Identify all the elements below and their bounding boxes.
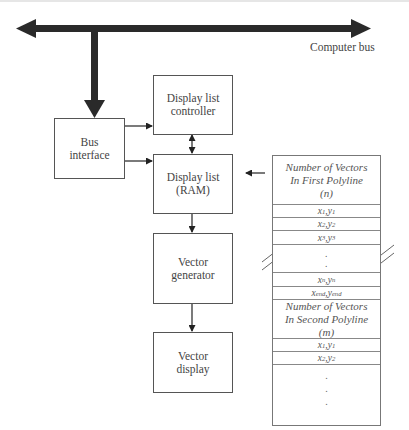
table-row: x3,y3 [273, 231, 380, 245]
ellipsis-row: . . [273, 245, 380, 273]
table-row: x2,y2 [273, 218, 380, 231]
block-label-line: Vector [171, 256, 214, 269]
header-line: In First Polyline [290, 174, 363, 187]
header-line: (m) [319, 326, 334, 339]
block-label-line: interface [69, 149, 109, 162]
table-row: xn,yn [273, 273, 380, 287]
header-line: Number of Vectors [286, 161, 368, 174]
vector-generator-block: Vectorgenerator [153, 233, 233, 304]
header-line: (n) [320, 187, 333, 200]
ellipsis-dot: . [273, 382, 380, 395]
computer-bus-arrow [16, 19, 371, 38]
display-list-table: Number of Vectors In First Polyline (n) … [272, 155, 381, 426]
ellipsis-dot: . [273, 369, 380, 382]
header-line: In Second Polyline [285, 313, 368, 326]
first-polyline-header: Number of Vectors In First Polyline (n) [273, 156, 380, 205]
ellipsis-dot: . [273, 395, 380, 408]
table-row: xend,yend [273, 287, 380, 300]
bus-interface-block: Businterface [54, 118, 125, 179]
table-row: x1,y1 [273, 205, 380, 218]
table-row: x1,y1 [273, 339, 380, 352]
vector-display-block: Vectordisplay [153, 332, 233, 393]
second-polyline-header: Number of Vectors In Second Polyline (m) [273, 300, 380, 339]
block-label-line: Display list [167, 92, 220, 105]
block-label-line: display [176, 363, 209, 376]
table-row: x2,y2 [273, 352, 380, 365]
block-label-line: Vector [176, 350, 209, 363]
computer-bus-label: Computer bus [310, 41, 375, 53]
block-label-line: controller [167, 105, 220, 118]
display-list-ram-block: Display list(RAM) [153, 154, 233, 214]
block-label-line: Display list [167, 171, 220, 184]
display-list-controller-block: Display listcontroller [153, 75, 233, 135]
bus-drop-arrow [84, 28, 105, 118]
block-label-line: (RAM) [167, 184, 220, 197]
block-label-line: generator [171, 269, 214, 282]
block-label-line: Bus [69, 136, 109, 149]
header-line: Number of Vectors [286, 300, 368, 313]
